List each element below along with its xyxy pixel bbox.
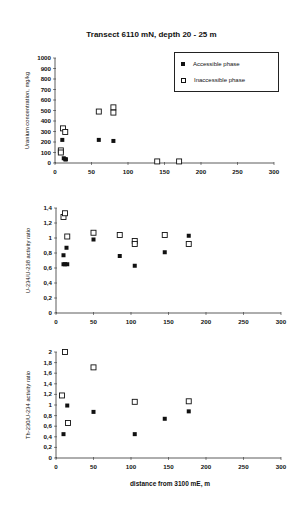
accessible-phase-point [187, 409, 191, 413]
y-tick-label: 2 [49, 348, 53, 355]
y-tick-label: 0,8 [43, 249, 52, 256]
legend-item-inaccessible: Inaccessible phase [181, 77, 245, 83]
open-square-marker-icon [181, 78, 186, 83]
y-tick-label: 200 [41, 138, 52, 145]
y-axis-label: U-234/U-238 activity ratio [25, 228, 31, 293]
x-tick-label: 200 [201, 463, 212, 470]
inaccessible-phase-point [58, 150, 63, 155]
y-tick-label: 0 [49, 309, 53, 316]
accessible-phase-point [65, 262, 69, 266]
x-tick-label: 250 [238, 318, 249, 325]
inaccessible-phase-point [111, 110, 116, 115]
y-tick-label: 1,6 [43, 369, 52, 376]
y-axis-label: Uranium concentration, mg/kg [24, 72, 30, 149]
filled-square-marker-icon [181, 62, 185, 66]
accessible-phase-point [133, 264, 137, 268]
inaccessible-phase-point [91, 230, 96, 235]
x-tick-label: 150 [159, 168, 170, 175]
y-tick-label: 500 [41, 107, 52, 114]
accessible-phase-point [97, 138, 101, 142]
y-tick-label: 1,4 [43, 380, 52, 387]
y-tick-label: 1,2 [43, 219, 52, 226]
inaccessible-phase-point [132, 242, 137, 247]
inaccessible-phase-point [96, 109, 101, 114]
x-tick-label: 300 [276, 318, 287, 325]
inaccessible-phase-point [91, 365, 96, 370]
inaccessible-phase-point [177, 159, 182, 164]
y-tick-label: 700 [41, 86, 52, 93]
x-tick-label: 100 [126, 318, 137, 325]
inaccessible-phase-point [63, 130, 68, 135]
accessible-phase-point [163, 417, 167, 421]
inaccessible-phase-point [186, 242, 191, 247]
inaccessible-phase-point [155, 159, 160, 164]
accessible-phase-point [118, 254, 122, 258]
x-tick-label: 250 [238, 463, 249, 470]
y-tick-label: 0,2 [43, 294, 52, 301]
inaccessible-phase-point [63, 350, 68, 355]
accessible-phase-point [65, 246, 69, 250]
y-tick-label: 1000 [37, 54, 51, 61]
y-tick-label: 0,2 [43, 443, 52, 450]
legend-label-inaccessible: Inaccessible phase [194, 77, 245, 83]
inaccessible-phase-point [65, 234, 70, 239]
accessible-phase-point [187, 234, 191, 238]
x-tick-label: 200 [196, 168, 207, 175]
accessible-phase-point [111, 139, 115, 143]
y-tick-label: 0 [48, 159, 52, 166]
x-tick-label: 0 [54, 463, 58, 470]
y-tick-label: 0,4 [43, 433, 52, 440]
accessible-phase-point [62, 253, 66, 257]
accessible-phase-point [92, 238, 96, 242]
legend-label-accessible: Accessible phase [193, 61, 240, 67]
y-tick-label: 0,4 [43, 279, 52, 286]
inaccessible-phase-point [117, 233, 122, 238]
y-tick-label: 0,8 [43, 412, 52, 419]
y-tick-label: 0,6 [43, 264, 52, 271]
y-tick-label: 900 [41, 65, 52, 72]
y-tick-label: 1 [49, 401, 53, 408]
accessible-phase-point [92, 410, 96, 414]
x-tick-label: 150 [163, 463, 174, 470]
y-tick-label: 0 [49, 454, 53, 461]
inaccessible-phase-point [111, 105, 116, 110]
chart-figure: Transect 6110 mN, depth 20 - 25 m 010020… [0, 0, 303, 512]
y-tick-label: 1,2 [43, 390, 52, 397]
accessible-phase-point [60, 138, 64, 142]
x-tick-label: 0 [54, 318, 58, 325]
x-tick-label: 150 [163, 318, 174, 325]
x-tick-label: 100 [126, 463, 137, 470]
y-tick-label: 400 [41, 117, 52, 124]
inaccessible-phase-point [60, 393, 65, 398]
x-tick-label: 50 [90, 318, 97, 325]
accessible-phase-point [65, 404, 69, 408]
y-tick-label: 300 [41, 128, 52, 135]
x-tick-label: 300 [276, 463, 287, 470]
x-axis-label: distance from 3100 mE, m [55, 480, 285, 487]
y-tick-label: 1,4 [43, 204, 52, 211]
x-tick-label: 0 [53, 168, 57, 175]
accessible-phase-point [133, 432, 137, 436]
y-tick-label: 1,8 [43, 359, 52, 366]
inaccessible-phase-point [63, 211, 68, 216]
x-tick-label: 50 [88, 168, 95, 175]
inaccessible-phase-point [186, 399, 191, 404]
y-tick-label: 0,6 [43, 422, 52, 429]
x-tick-label: 300 [269, 168, 280, 175]
y-tick-label: 600 [41, 96, 52, 103]
inaccessible-phase-point [66, 421, 71, 426]
y-tick-label: 100 [41, 149, 52, 156]
y-tick-label: 800 [41, 75, 52, 82]
legend: Accessible phase Inaccessible phase [174, 52, 279, 92]
x-tick-label: 200 [201, 318, 212, 325]
x-tick-label: 100 [123, 168, 134, 175]
legend-item-accessible: Accessible phase [181, 61, 240, 67]
inaccessible-phase-point [132, 399, 137, 404]
accessible-phase-point [163, 250, 167, 254]
accessible-phase-point [62, 432, 66, 436]
y-axis-label: Th-230/U-234 activity ratio [25, 371, 31, 439]
x-tick-label: 50 [90, 463, 97, 470]
inaccessible-phase-point [162, 233, 167, 238]
accessible-phase-point [64, 157, 68, 161]
x-tick-label: 250 [232, 168, 243, 175]
